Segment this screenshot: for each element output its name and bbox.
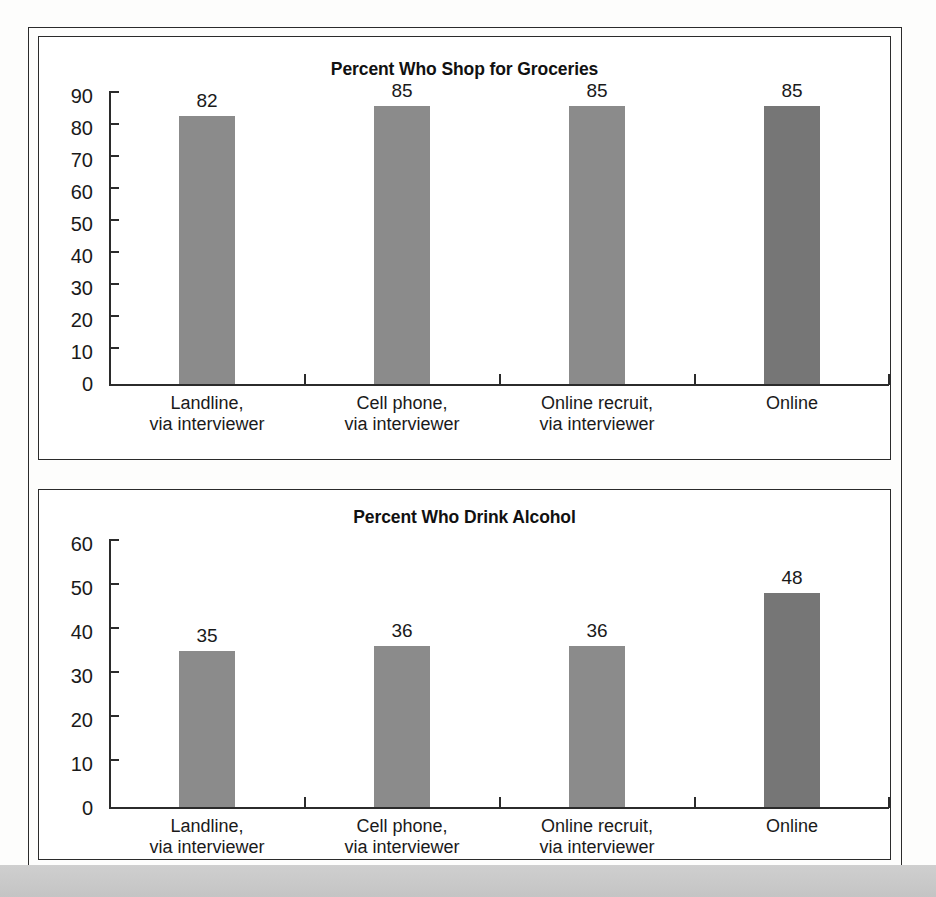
x-category-label: Online recruit, via interviewer	[517, 816, 677, 858]
bar-cell-phone	[374, 646, 430, 807]
category-line-1: Cell phone,	[356, 816, 447, 836]
chart-title-alcohol: Percent Who Drink Alcohol	[39, 507, 890, 528]
category-line-2: via interviewer	[517, 837, 677, 858]
y-axis-tick	[109, 715, 119, 717]
y-tick-label: 50	[47, 214, 93, 234]
y-tick-label: 80	[47, 118, 93, 138]
y-axis-tick	[109, 219, 119, 221]
category-line-1: Online recruit,	[541, 393, 653, 413]
y-tick-label: 70	[47, 150, 93, 170]
y-axis-tick	[109, 627, 119, 629]
y-axis-tick	[109, 187, 119, 189]
y-axis-tick	[109, 583, 119, 585]
y-tick-label: 10	[47, 754, 93, 774]
x-category-label: Online	[712, 393, 872, 414]
x-category-label: Cell phone, via interviewer	[322, 816, 482, 858]
bar-value-label: 85	[374, 81, 430, 100]
y-axis-tick	[109, 155, 119, 157]
category-line-2: via interviewer	[517, 414, 677, 435]
bar-landline	[179, 116, 235, 384]
bar-value-label: 36	[374, 621, 430, 640]
y-tick-label: 40	[47, 622, 93, 642]
y-axis	[109, 91, 111, 385]
x-category-label: Online	[712, 816, 872, 837]
bar-landline	[179, 651, 235, 807]
x-category-label: Landline, via interviewer	[127, 816, 287, 858]
y-tick-label: 60	[47, 182, 93, 202]
chart-title-groceries: Percent Who Shop for Groceries	[39, 59, 890, 80]
bar-online-recruit	[569, 106, 625, 384]
y-tick-label: 50	[47, 578, 93, 598]
bar-value-label: 85	[764, 81, 820, 100]
y-axis-tick	[109, 315, 119, 317]
y-tick-label: 10	[47, 342, 93, 362]
x-category-label: Landline, via interviewer	[127, 393, 287, 435]
y-tick-label: 60	[47, 534, 93, 554]
bar-online	[764, 106, 820, 384]
scan-edge-band	[0, 865, 936, 897]
y-axis-tick	[109, 671, 119, 673]
bar-value-label: 82	[179, 91, 235, 110]
y-axis-tick	[109, 539, 119, 541]
y-tick-label: 20	[47, 710, 93, 730]
x-axis-separator-tick	[304, 374, 306, 385]
y-axis-tick	[109, 283, 119, 285]
bar-value-label: 85	[569, 81, 625, 100]
category-line-1: Cell phone,	[356, 393, 447, 413]
scanned-page: the nature of sampling and weighting Int…	[0, 0, 936, 897]
y-tick-label: 90	[47, 86, 93, 106]
x-axis-separator-tick	[694, 797, 696, 808]
x-axis-end-tick	[888, 797, 890, 808]
x-category-label: Cell phone, via interviewer	[322, 393, 482, 435]
y-tick-label: 40	[47, 246, 93, 266]
category-line-1: Landline,	[170, 393, 243, 413]
y-tick-label: 0	[47, 798, 93, 818]
bar-value-label: 35	[179, 626, 235, 645]
x-axis-separator-tick	[499, 374, 501, 385]
bar-online-recruit	[569, 646, 625, 807]
category-line-1: Online	[766, 393, 818, 413]
y-axis-tick	[109, 251, 119, 253]
y-axis	[109, 539, 111, 808]
category-line-2: via interviewer	[322, 414, 482, 435]
x-axis-separator-tick	[694, 374, 696, 385]
chart-panel-groceries: Percent Who Shop for Groceries 90 80 70 …	[38, 36, 891, 460]
chart-panel-alcohol: Percent Who Drink Alcohol 60 50 40 30 20…	[38, 489, 891, 860]
y-tick-label: 0	[47, 374, 93, 394]
bar-cell-phone	[374, 106, 430, 384]
y-tick-label: 30	[47, 666, 93, 686]
category-line-2: via interviewer	[127, 414, 287, 435]
x-axis-separator-tick	[304, 797, 306, 808]
category-line-1: Online recruit,	[541, 816, 653, 836]
y-axis-tick	[109, 347, 119, 349]
x-axis-separator-tick	[499, 797, 501, 808]
category-line-1: Online	[766, 816, 818, 836]
category-line-1: Landline,	[170, 816, 243, 836]
y-axis-tick	[109, 91, 119, 93]
y-axis-tick	[109, 759, 119, 761]
x-axis-end-tick	[888, 374, 890, 385]
y-tick-label: 30	[47, 278, 93, 298]
category-line-2: via interviewer	[322, 837, 482, 858]
y-axis-tick	[109, 123, 119, 125]
bar-value-label: 48	[764, 568, 820, 587]
bar-value-label: 36	[569, 621, 625, 640]
x-category-label: Online recruit, via interviewer	[517, 393, 677, 435]
y-tick-label: 20	[47, 310, 93, 330]
category-line-2: via interviewer	[127, 837, 287, 858]
bar-online	[764, 593, 820, 807]
